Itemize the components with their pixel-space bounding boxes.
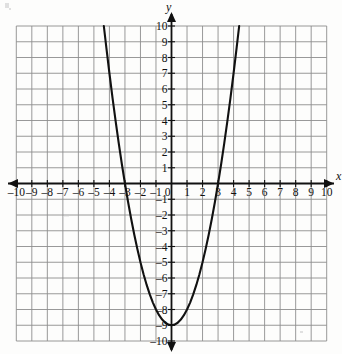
y-tick-label: 5 xyxy=(162,99,168,111)
x-tick-label: –9 xyxy=(25,186,38,198)
x-tick-label: –5 xyxy=(87,186,100,198)
x-tick-label: –10 xyxy=(7,186,26,198)
y-tick-label: 10 xyxy=(156,20,168,32)
y-tick-label: 7 xyxy=(162,67,168,79)
x-tick-label: 5 xyxy=(246,186,252,198)
x-tick-label: 6 xyxy=(262,186,268,198)
y-tick-label: 3 xyxy=(162,130,168,142)
y-tick-label: 2 xyxy=(162,146,168,158)
x-tick-label: –4 xyxy=(103,186,116,198)
x-tick-label: –2 xyxy=(134,186,147,198)
x-tick-label: 8 xyxy=(293,186,299,198)
x-tick-label: 7 xyxy=(277,186,283,198)
y-tick-label: 8 xyxy=(162,52,168,64)
x-tick-label: 4 xyxy=(231,186,237,198)
y-tick-label: –4 xyxy=(155,241,168,253)
y-tick-label: 1 xyxy=(162,162,168,174)
x-tick-label: 2 xyxy=(200,186,206,198)
y-tick-label: –5 xyxy=(155,256,168,268)
y-tick-label: 4 xyxy=(162,115,168,127)
x-tick-label: –8 xyxy=(41,186,54,198)
x-tick-label: –6 xyxy=(72,186,85,198)
x-tick-label: 9 xyxy=(308,186,314,198)
x-tick-label: 1 xyxy=(184,186,190,198)
y-axis-label: y xyxy=(165,0,172,14)
graph-figure: –10–9–8–7–6–5–4–3–2–1012345678910 –10–9–… xyxy=(0,0,342,354)
x-tick-label: 10 xyxy=(321,186,333,198)
x-tick-label: –7 xyxy=(56,186,69,198)
y-tick-label: –1 xyxy=(155,193,168,205)
coordinate-plane-svg: –10–9–8–7–6–5–4–3–2–1012345678910 –10–9–… xyxy=(0,0,342,354)
y-tick-label: –10 xyxy=(149,335,168,347)
x-axis-label: x xyxy=(335,169,342,183)
scan-speck xyxy=(64,214,69,217)
y-tick-label: –3 xyxy=(155,225,168,237)
y-tick-label: –6 xyxy=(155,272,168,284)
y-tick-label: –7 xyxy=(155,288,168,300)
x-tick-label: –3 xyxy=(118,186,131,198)
scan-speck xyxy=(9,8,11,10)
y-tick-label: 6 xyxy=(162,83,168,95)
y-tick-label: –9 xyxy=(155,319,168,331)
y-tick-label: –2 xyxy=(155,209,168,221)
y-tick-label: 9 xyxy=(162,36,168,48)
scan-speck xyxy=(300,331,303,333)
